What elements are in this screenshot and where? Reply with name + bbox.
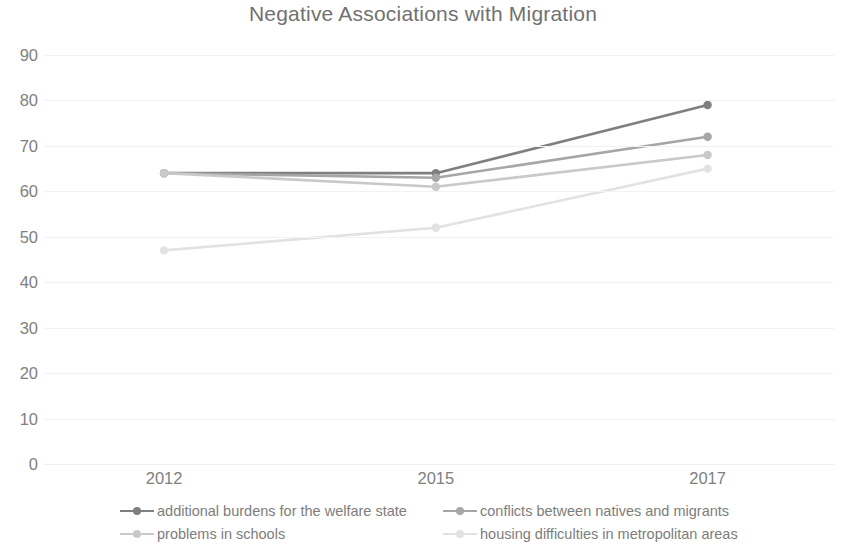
data-point-marker (432, 223, 440, 231)
gridline (44, 419, 834, 420)
gridline (44, 373, 834, 374)
chart-series (160, 133, 712, 182)
data-point-marker (703, 133, 711, 141)
data-point-marker (703, 164, 711, 172)
x-axis-tick-label: 2017 (689, 470, 726, 487)
legend-item-label: conflicts between natives and migrants (480, 504, 729, 519)
data-point-marker (432, 174, 440, 182)
gridline (44, 328, 834, 329)
gridline (44, 282, 834, 283)
chart-series (160, 101, 712, 178)
legend-item[interactable]: conflicts between natives and migrants (443, 500, 729, 522)
gridline (44, 146, 834, 147)
y-axis-tick-label: 90 (4, 47, 38, 64)
gridline (44, 191, 834, 192)
legend-swatch-icon (443, 528, 477, 540)
gridline (44, 100, 834, 101)
y-axis-tick-label: 30 (4, 320, 38, 337)
chart-title: Negative Associations with Migration (0, 2, 846, 26)
x-axis: 201220152017 (44, 470, 834, 496)
legend-item[interactable]: housing difficulties in metropolitan are… (443, 523, 738, 545)
legend-item[interactable]: additional burdens for the welfare state (120, 500, 407, 522)
y-axis-tick-label: 50 (4, 229, 38, 246)
y-axis-tick-label: 10 (4, 411, 38, 428)
x-axis-tick-label: 2015 (417, 470, 454, 487)
y-axis: 9080706050403020100 (0, 0, 38, 549)
legend-swatch-icon (120, 528, 154, 540)
legend-swatch-icon (443, 505, 477, 517)
data-point-marker (703, 151, 711, 159)
y-axis-tick-label: 20 (4, 365, 38, 382)
legend-item[interactable]: problems in schools (120, 523, 285, 545)
chart-plot-svg (44, 55, 834, 464)
series-line (164, 105, 708, 173)
data-point-marker (160, 169, 168, 177)
x-axis-tick-label: 2012 (146, 470, 183, 487)
plot-area (44, 55, 834, 464)
y-axis-tick-label: 80 (4, 92, 38, 109)
legend-item-label: additional burdens for the welfare state (157, 504, 407, 519)
gridline (44, 237, 834, 238)
y-axis-tick-label: 60 (4, 183, 38, 200)
line-chart: Negative Associations with Migration 908… (0, 0, 846, 549)
chart-legend: additional burdens for the welfare state… (120, 500, 740, 546)
gridline (44, 55, 834, 56)
legend-item-label: housing difficulties in metropolitan are… (480, 527, 738, 542)
legend-item-label: problems in schools (157, 527, 285, 542)
data-point-marker (703, 101, 711, 109)
legend-swatch-icon (120, 505, 154, 517)
x-axis-line (44, 464, 834, 465)
data-point-marker (432, 183, 440, 191)
y-axis-tick-label: 40 (4, 274, 38, 291)
y-axis-tick-label: 70 (4, 138, 38, 155)
data-point-marker (160, 246, 168, 254)
y-axis-tick-label: 0 (4, 456, 38, 473)
